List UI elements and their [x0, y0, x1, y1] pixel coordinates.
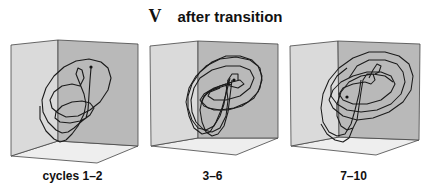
phase-plot-cycles-3-6: 3–6 [140, 34, 285, 196]
3d-box-plot [0, 34, 145, 169]
left-wall [150, 41, 198, 146]
3d-box-plot [140, 34, 285, 169]
title-text: after transition [177, 8, 282, 25]
3d-box-plot [281, 34, 426, 169]
start-point [232, 78, 235, 81]
figure-title: Vafter transition [0, 6, 431, 28]
phase-plot-cycles-7-10: 7–10 [281, 34, 426, 196]
phase-plot-cycles-1-2: cycles 1–2 [0, 34, 145, 196]
start-point [345, 95, 348, 98]
panel-label: 3–6 [140, 169, 285, 183]
panel-letter: V [148, 6, 161, 27]
start-point [89, 65, 92, 68]
panel-label: 7–10 [281, 169, 426, 183]
panel-label: cycles 1–2 [0, 169, 145, 183]
